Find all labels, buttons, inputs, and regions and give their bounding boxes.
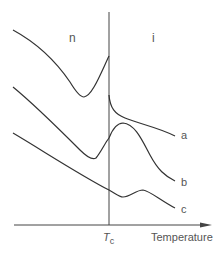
critical-temperature-symbol: T	[103, 231, 110, 243]
curve-a-right	[109, 95, 175, 136]
critical-temperature-label: Tc	[103, 232, 114, 246]
curve-c	[13, 133, 175, 208]
curve-b	[13, 87, 175, 181]
curve-label-b: b	[181, 177, 187, 188]
critical-temperature-subscript: c	[110, 236, 115, 246]
x-axis-label: Temperature	[151, 232, 213, 243]
curve-label-a: a	[181, 130, 187, 141]
curve-a-left	[13, 30, 109, 97]
axis-arrowhead-icon	[200, 223, 212, 228]
region-label-i: i	[152, 32, 155, 44]
region-label-n: n	[69, 32, 76, 44]
curve-label-c: c	[181, 204, 187, 215]
